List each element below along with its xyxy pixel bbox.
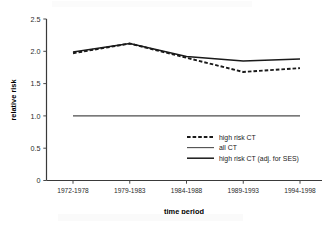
x-tick-label: 1989-1993 bbox=[227, 187, 259, 194]
y-axis-title: relative risk bbox=[9, 79, 18, 121]
x-tick-label: 1994-1998 bbox=[284, 187, 316, 194]
series-line-high-risk-ct-adj-for-ses bbox=[73, 44, 300, 61]
bottom-artifact bbox=[58, 214, 243, 221]
y-tick-label: 2.0 bbox=[31, 47, 41, 56]
chart-figure: 00.51.01.52.02.5 1972-19781979-19831984-… bbox=[0, 0, 331, 226]
legend-label-2: all CT bbox=[219, 144, 238, 151]
series-line-high-risk-ct bbox=[73, 44, 300, 72]
relative-risk-line-chart: 00.51.01.52.02.5 1972-19781979-19831984-… bbox=[0, 0, 331, 226]
y-tick-label: 1.5 bbox=[31, 79, 41, 88]
top-artifact bbox=[52, 1, 252, 7]
y-tick-label: 0 bbox=[37, 176, 41, 185]
x-tick-label: 1979-1983 bbox=[114, 187, 146, 194]
x-tick-label: 1972-1978 bbox=[57, 187, 89, 194]
y-tick-label: 1.0 bbox=[31, 112, 41, 121]
y-tick-label: 2.5 bbox=[31, 15, 41, 24]
chart-legend: high risk CTall CThigh risk CT (adj. for… bbox=[187, 134, 299, 163]
legend-label-3: high risk CT (adj. for SES) bbox=[219, 155, 299, 163]
x-tick-label: 1984-1988 bbox=[171, 187, 203, 194]
y-axis-ticks: 00.51.01.52.02.5 bbox=[31, 15, 47, 186]
data-series-layer bbox=[73, 44, 300, 116]
legend-label-1: high risk CT bbox=[219, 134, 257, 142]
y-tick-label: 0.5 bbox=[31, 144, 41, 153]
x-axis-ticks: 1972-19781979-19831984-19881989-19931994… bbox=[57, 181, 316, 195]
